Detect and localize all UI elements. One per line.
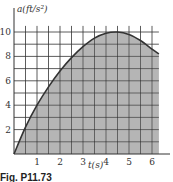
x-tick-label: 5 [126, 157, 132, 167]
x-tick-label: 3 [80, 157, 86, 167]
x-tick-label: 4 [103, 157, 109, 167]
y-tick-label: 10 [0, 27, 11, 37]
figure-caption: Fig. P11.73 [0, 172, 52, 182]
y-tick-label: 4 [5, 100, 11, 110]
y-tick-label: 6 [5, 76, 11, 86]
y-tick-labels: 246810 [0, 27, 11, 135]
x-tick-label: 1 [34, 157, 40, 167]
x-tick-label: 2 [57, 157, 63, 167]
y-axis-label: a(ft/s²) [17, 4, 48, 14]
acceleration-chart: 123456 246810 a(ft/s²) t(s) [0, 0, 173, 172]
x-axis-label: t(s) [88, 160, 104, 170]
x-tick-label: 6 [149, 157, 155, 167]
y-tick-label: 8 [5, 51, 11, 61]
y-tick-label: 2 [5, 125, 11, 135]
